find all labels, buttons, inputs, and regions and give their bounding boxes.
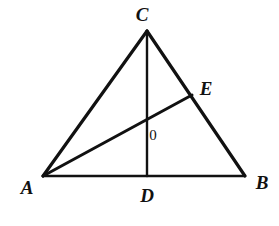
vertex-label-b: B	[256, 173, 269, 192]
vertex-label-c: C	[136, 5, 149, 24]
vertex-label-e: E	[200, 79, 213, 98]
cevian-AE-line	[43, 95, 192, 176]
intersection-label-o: 0	[149, 128, 157, 143]
side-CB-line	[147, 31, 245, 176]
vertex-label-a: A	[21, 178, 34, 197]
vertex-label-d: D	[140, 186, 154, 205]
triangle-figure: C A B D E 0	[0, 0, 279, 226]
side-AC-line	[43, 31, 147, 176]
